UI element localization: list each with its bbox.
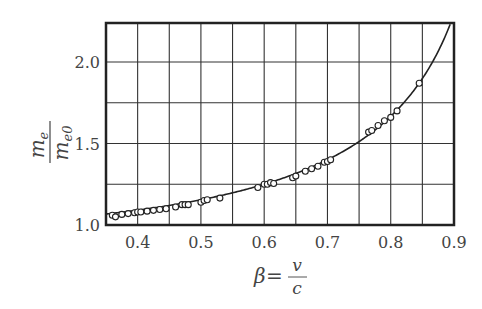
data-point [173,204,179,210]
x-tick-label: 0.9 [441,233,466,252]
svg-text:me0: me0 [49,126,75,161]
x-label-beta: β [253,264,266,288]
data-point [271,180,277,186]
relativistic-mass-chart: 0.40.50.60.70.80.9 1.01.52.0 me me0 β = … [0,0,482,309]
x-tick-label: 0.7 [315,233,340,252]
x-axis-tick-labels: 0.40.50.60.70.80.9 [125,233,467,252]
y-axis-label: me me0 [25,121,75,163]
x-tick-label: 0.8 [378,233,403,252]
x-tick-label: 0.6 [251,233,276,252]
data-point [157,207,163,213]
theory-curve [106,24,450,214]
data-point [217,195,223,201]
data-points [109,80,422,220]
data-point [375,123,381,129]
y-tick-label: 1.5 [75,135,100,154]
y-label-den: m [49,142,73,161]
data-point [381,118,387,124]
y-label-num: m [25,139,49,158]
x-axis-label: β = v c [253,255,307,298]
y-label-den-sub: e0 [60,126,75,142]
x-label-den: c [292,278,302,298]
data-point [394,108,400,114]
data-point [144,208,150,214]
x-label-num: v [292,255,302,275]
data-point [185,202,191,208]
data-point [119,211,125,217]
data-point [302,168,308,174]
data-point [163,206,169,212]
data-point [309,166,315,172]
x-tick-label: 0.4 [125,233,150,252]
data-point [416,80,422,86]
data-point [112,214,118,220]
data-point [125,211,131,217]
data-point [204,197,210,203]
y-tick-label: 1.0 [75,216,100,235]
data-point [293,173,299,179]
data-point [138,209,144,215]
x-label-equals: = [266,264,283,288]
data-point [150,207,156,213]
data-point [328,157,334,163]
plot-frame [106,23,454,225]
data-point [255,185,261,191]
y-axis-tick-labels: 1.01.52.0 [75,53,100,235]
y-label-num-sub: e [36,131,51,139]
svg-text:me: me [25,131,51,158]
grid-lines [106,23,454,225]
data-point [388,114,394,120]
data-point [369,127,375,133]
x-tick-label: 0.5 [188,233,213,252]
y-tick-label: 2.0 [75,53,100,72]
data-point [315,163,321,169]
